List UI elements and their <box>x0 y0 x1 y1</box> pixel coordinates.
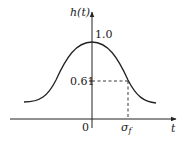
x-axis-label: t <box>171 122 176 135</box>
y-axis-label: h(t) <box>70 6 90 19</box>
level-label: 0.61 <box>70 75 95 88</box>
sigma-label: σf <box>121 121 134 135</box>
origin-label: 0 <box>82 121 89 134</box>
peak-label: 1.0 <box>95 28 113 41</box>
gaussian-curve <box>24 42 156 103</box>
gaussian-pulse-chart: h(t) 1.0 0.61 0 σf t <box>0 0 189 143</box>
